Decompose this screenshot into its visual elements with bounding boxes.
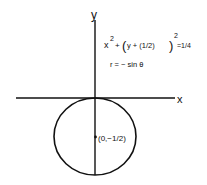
eq-plus: + [115,41,120,50]
eq-exp2: 2 [174,32,178,39]
x-axis-label: x [177,93,183,105]
polar-circle-diagram: y x x 2 + ( y + (1/2) ) 2 =1/4 r = − sin… [0,0,207,185]
eq-x: x [104,40,109,50]
y-axis-label: y [91,8,97,22]
eq-close-paren: ) [169,38,173,53]
eq-exp1: 2 [110,35,114,42]
eq-inner: y + (1/2) [127,41,155,50]
center-point [94,136,97,139]
cartesian-equation: x 2 + ( y + (1/2) ) 2 =1/4 [104,32,191,53]
center-label: (0,−1/2) [98,134,126,143]
polar-equation: r = − sin θ [110,60,143,69]
eq-rhs: =1/4 [177,42,191,49]
